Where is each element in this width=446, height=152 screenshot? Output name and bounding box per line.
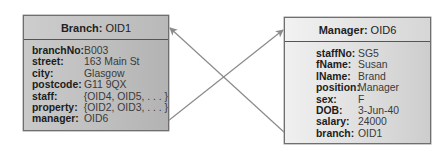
attribute-row: staff:{OID4, OID5, . . . } bbox=[32, 91, 168, 102]
attribute-row: city:Glasgow bbox=[32, 68, 168, 79]
attribute-row: sex:F bbox=[316, 94, 430, 105]
attribute-row: postcode:G11 9QX bbox=[32, 79, 168, 90]
attribute-value: {OID2, OID3, . . . } bbox=[84, 102, 168, 113]
attribute-key: salary: bbox=[316, 116, 358, 127]
attribute-key: street: bbox=[32, 56, 84, 67]
manager-object-header: Manager: OID6 bbox=[285, 18, 430, 42]
attribute-key: fName: bbox=[316, 59, 358, 70]
attribute-value: Susan bbox=[358, 59, 387, 70]
attribute-value: Glasgow bbox=[84, 68, 124, 79]
branch-attributes: branchNo:B003 street:163 Main St city:Gl… bbox=[24, 40, 168, 125]
attribute-row: salary:24000 bbox=[316, 116, 430, 127]
attribute-row: position:Manager bbox=[316, 82, 430, 93]
manager-class-name: Manager: bbox=[319, 24, 368, 36]
attribute-value: OID1 bbox=[358, 128, 382, 139]
attribute-value: 24000 bbox=[358, 116, 387, 127]
branch-object-header: Branch: OID1 bbox=[24, 16, 168, 40]
attribute-row: street:163 Main St bbox=[32, 56, 168, 67]
attribute-row: property:{OID2, OID3, . . . } bbox=[32, 102, 168, 113]
attribute-key: property: bbox=[32, 102, 84, 113]
attribute-value: Brand bbox=[358, 71, 386, 82]
manager-object-box[interactable]: Manager: OID6 staffNo:SG5 fName:Susan lN… bbox=[284, 17, 431, 144]
attribute-key: sex: bbox=[316, 94, 358, 105]
attribute-value: G11 9QX bbox=[84, 79, 127, 90]
attribute-key: postcode: bbox=[32, 79, 84, 90]
attribute-value: 3-Jun-40 bbox=[358, 105, 399, 116]
attribute-value: SG5 bbox=[358, 48, 379, 59]
manager-attributes: staffNo:SG5 fName:Susan lName:Brand posi… bbox=[285, 42, 430, 139]
attribute-value: F bbox=[358, 94, 364, 105]
attribute-row: staffNo:SG5 bbox=[316, 48, 430, 59]
attribute-row: branch:OID1 bbox=[316, 128, 430, 139]
branch-class-name: Branch: bbox=[61, 22, 103, 34]
attribute-key: DOB: bbox=[316, 105, 358, 116]
attribute-key: branchNo: bbox=[32, 45, 84, 56]
attribute-key: staff: bbox=[32, 91, 84, 102]
attribute-key: manager: bbox=[32, 113, 84, 124]
link-manager-branch-to-branch-arrow bbox=[170, 28, 285, 133]
attribute-key: position: bbox=[316, 82, 358, 93]
attribute-row: manager:OID6 bbox=[32, 113, 168, 124]
attribute-value: {OID4, OID5, . . . } bbox=[84, 91, 168, 102]
attribute-row: branchNo:B003 bbox=[32, 45, 168, 56]
attribute-row: lName:Brand bbox=[316, 71, 430, 82]
link-branch-manager-to-manager-arrow bbox=[168, 30, 283, 121]
manager-oid: OID6 bbox=[371, 24, 397, 36]
branch-oid: OID1 bbox=[105, 22, 131, 34]
attribute-value: 163 Main St bbox=[84, 56, 139, 67]
attribute-row: DOB:3-Jun-40 bbox=[316, 105, 430, 116]
attribute-key: branch: bbox=[316, 128, 358, 139]
attribute-value: Manager bbox=[358, 82, 399, 93]
attribute-key: lName: bbox=[316, 71, 358, 82]
attribute-value: OID6 bbox=[84, 113, 108, 124]
attribute-value: B003 bbox=[84, 45, 108, 56]
attribute-row: fName:Susan bbox=[316, 59, 430, 70]
attribute-key: staffNo: bbox=[316, 48, 358, 59]
branch-object-box[interactable]: Branch: OID1 branchNo:B003 street:163 Ma… bbox=[23, 15, 169, 131]
attribute-key: city: bbox=[32, 68, 84, 79]
